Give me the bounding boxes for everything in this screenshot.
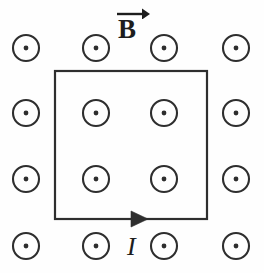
field-dot-center-point — [24, 46, 29, 51]
field-dot-center-point — [162, 46, 167, 51]
field-dot-center-point — [24, 244, 29, 249]
field-dot-symbol — [223, 35, 249, 61]
field-dot-symbol — [151, 166, 177, 192]
field-dot-center-point — [94, 177, 99, 182]
field-dot-center-point — [94, 46, 99, 51]
physics-figure: B I — [0, 0, 264, 273]
field-dot-symbol — [13, 35, 39, 61]
field-dot-symbol — [13, 166, 39, 192]
field-dot-symbol — [83, 166, 109, 192]
field-dot-center-point — [162, 111, 167, 116]
field-dot-center-point — [24, 177, 29, 182]
magnetic-field-label: B — [118, 16, 136, 43]
field-dot-symbol — [13, 233, 39, 259]
field-dot-symbol — [151, 35, 177, 61]
field-dot-symbol — [223, 100, 249, 126]
field-dot-center-point — [24, 111, 29, 116]
field-dot-symbol — [83, 233, 109, 259]
field-dot-center-point — [234, 111, 239, 116]
current-direction-arrowhead — [131, 211, 148, 227]
field-dot-center-point — [162, 244, 167, 249]
field-dot-symbol — [83, 35, 109, 61]
field-dot-symbol — [83, 100, 109, 126]
field-dot-center-point — [234, 177, 239, 182]
field-dot-symbol — [151, 100, 177, 126]
field-dot-symbol — [13, 100, 39, 126]
field-dot-symbol — [223, 233, 249, 259]
square-current-loop — [55, 71, 207, 219]
field-dot-center-point — [94, 111, 99, 116]
field-dot-center-point — [234, 244, 239, 249]
field-dot-symbol — [151, 233, 177, 259]
field-dot-center-point — [94, 244, 99, 249]
field-dot-symbol — [223, 166, 249, 192]
field-dot-center-point — [162, 177, 167, 182]
current-label: I — [127, 234, 136, 260]
field-dot-center-point — [234, 46, 239, 51]
